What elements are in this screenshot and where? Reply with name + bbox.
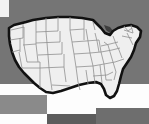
left-panel[interactable] (0, 95, 47, 114)
screenshot-root (0, 0, 149, 124)
national-boundary-outline (9, 17, 141, 98)
bottom-left-spacer (0, 114, 47, 124)
right-panel[interactable] (96, 108, 149, 124)
